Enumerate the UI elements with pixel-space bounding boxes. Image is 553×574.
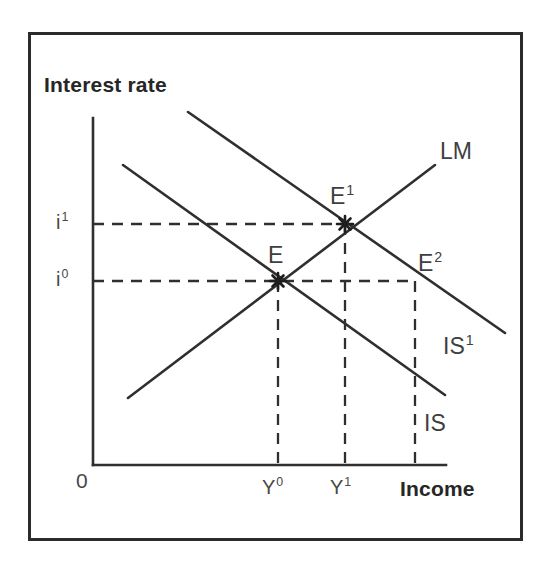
x-tick-label-Y0: Y0: [262, 477, 283, 497]
y-tick-i0-exponent: 0: [60, 267, 68, 281]
x-tick-label-Y1: Y1: [330, 477, 351, 497]
point-label-E: E: [268, 244, 284, 267]
marker-E1: [337, 216, 353, 232]
y-tick-label-i0: i0: [56, 269, 68, 289]
curve-label-LM: LM: [440, 140, 473, 163]
y-axis-title: Interest rate: [44, 74, 167, 95]
y-tick-i1-exponent: 1: [60, 210, 68, 224]
marker-E: [270, 273, 286, 289]
curve-IS1-base: IS: [443, 333, 465, 359]
origin-label: 0: [76, 470, 88, 491]
point-E2-base: E: [418, 250, 433, 276]
is-lm-figure: Interest rate Income 0 i1 i0 Y0 Y1 LM IS…: [0, 0, 553, 574]
x-tick-Y0-exponent: 0: [275, 475, 283, 489]
point-E1-base: E: [330, 183, 345, 209]
point-E-exponent: [283, 241, 284, 257]
curve-label-IS1: IS1: [443, 335, 474, 358]
curve-LM-base: LM: [440, 138, 472, 164]
point-label-E2: E2: [418, 252, 442, 275]
point-E-base: E: [268, 242, 283, 268]
curve-label-IS: IS: [424, 412, 447, 435]
x-tick-Y1-exponent: 1: [343, 475, 351, 489]
curve-IS1-exponent: 1: [465, 332, 474, 348]
x-tick-Y1-base: Y: [330, 476, 343, 498]
point-label-E1: E1: [330, 185, 354, 208]
y-tick-label-i1: i1: [56, 212, 68, 232]
x-axis-title: Income: [400, 478, 475, 499]
point-E2-exponent: 2: [433, 249, 442, 265]
curve-LM-exponent: [472, 137, 473, 153]
point-E1-exponent: 1: [345, 182, 354, 198]
curve-IS-base: IS: [424, 410, 446, 436]
curve-IS-exponent: [446, 409, 447, 425]
x-tick-Y0-base: Y: [262, 476, 275, 498]
